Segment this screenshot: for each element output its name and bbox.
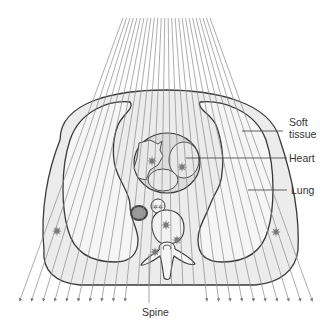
diagram-canvas: ✲✲ — [0, 0, 330, 326]
spine-star-lower-icon — [150, 247, 160, 257]
lung-left-star-icon — [52, 226, 62, 236]
label-lung: Lung — [291, 184, 314, 196]
heart-star-right-icon — [177, 162, 187, 172]
lung-right-star-icon — [271, 227, 281, 237]
label-soft-tissue: Soft tissue — [289, 116, 316, 140]
spine-star-upper-icon — [172, 235, 182, 245]
aorta-star-icon — [161, 220, 171, 230]
label-heart: Heart — [289, 152, 315, 164]
label-soft-tissue-line1: Soft — [289, 116, 316, 128]
heart-star-left-icon — [147, 156, 157, 166]
label-soft-tissue-line2: tissue — [289, 128, 316, 140]
heart-chamber-lower — [148, 169, 178, 191]
label-spine: Spine — [142, 306, 169, 318]
